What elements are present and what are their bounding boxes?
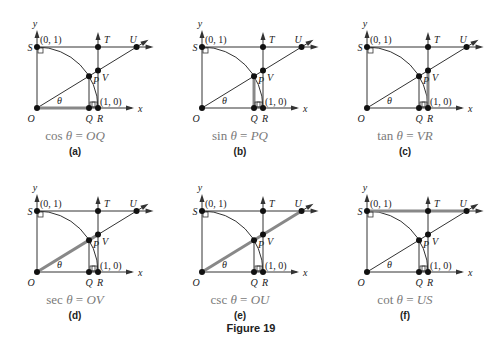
- label-U: U: [295, 198, 303, 209]
- label-Q: Q: [415, 277, 423, 288]
- label-y-axis: y: [197, 18, 203, 29]
- label-P: P: [422, 239, 429, 250]
- label-O: O: [192, 277, 199, 288]
- label-R: R: [96, 277, 103, 288]
- panel-f: OQRSTUVPθxy(0, 1)(1, 0)cot θ = US(f): [357, 182, 483, 321]
- label-theta: θ: [57, 259, 62, 270]
- label-coord-1-0: (1, 0): [100, 96, 122, 108]
- point-P: [251, 73, 257, 79]
- point-O: [34, 269, 40, 275]
- y-axis-arrow-icon: [365, 194, 370, 202]
- caption-sin: sin θ = PQ: [212, 128, 269, 143]
- label-S: S: [28, 42, 33, 53]
- label-y-axis: y: [197, 182, 203, 193]
- label-y-axis: y: [32, 182, 38, 193]
- label-y-axis: y: [32, 18, 38, 29]
- panel-c: OQRSTUVPθxy(0, 1)(1, 0)tan θ = VR(c): [357, 18, 483, 157]
- label-R: R: [426, 113, 433, 124]
- label-O: O: [27, 113, 34, 124]
- label-coord-1-0: (1, 0): [265, 96, 287, 108]
- point-T: [260, 44, 266, 50]
- x-axis-arrow-icon: [456, 106, 464, 111]
- tangent-arrow-icon: [261, 32, 266, 40]
- label-S: S: [193, 206, 198, 217]
- label-theta: θ: [387, 259, 392, 270]
- label-coord-0-1: (0, 1): [205, 198, 227, 210]
- subfigure-label-b: (b): [234, 146, 247, 157]
- label-T: T: [269, 34, 276, 45]
- caption-cot: cot θ = US: [377, 292, 433, 307]
- x-axis-arrow-icon: [291, 270, 299, 275]
- label-coord-0-1: (0, 1): [40, 34, 62, 46]
- point-O: [364, 269, 370, 275]
- point-Q: [416, 269, 422, 275]
- label-P: P: [92, 75, 99, 86]
- horizontal-arrow-icon: [146, 45, 154, 50]
- label-P: P: [422, 75, 429, 86]
- label-R: R: [261, 277, 268, 288]
- label-y-axis: y: [362, 18, 368, 29]
- point-P: [416, 237, 422, 243]
- point-T: [425, 208, 431, 214]
- subfigure-label-c: (c): [399, 146, 411, 157]
- label-U: U: [460, 34, 468, 45]
- label-Q: Q: [250, 277, 258, 288]
- label-S: S: [193, 42, 198, 53]
- label-Q: Q: [85, 277, 93, 288]
- tangent-arrow-icon: [261, 196, 266, 204]
- label-coord-1-0: (1, 0): [430, 260, 452, 272]
- label-O: O: [192, 113, 199, 124]
- subfigure-label-d: (d): [69, 310, 82, 321]
- y-axis-arrow-icon: [200, 194, 205, 202]
- label-x-axis: x: [137, 103, 143, 114]
- y-axis-arrow-icon: [35, 194, 40, 202]
- label-U: U: [460, 198, 468, 209]
- label-V: V: [267, 72, 275, 83]
- horizontal-arrow-icon: [476, 45, 484, 50]
- tangent-arrow-icon: [426, 32, 431, 40]
- label-theta: θ: [387, 95, 392, 106]
- point-Q: [86, 105, 92, 111]
- label-O: O: [357, 277, 364, 288]
- label-T: T: [434, 34, 441, 45]
- caption-csc: csc θ = OU: [211, 292, 271, 307]
- label-S: S: [358, 206, 363, 217]
- label-x-axis: x: [467, 103, 473, 114]
- subfigure-label-f: (f): [400, 310, 410, 321]
- label-Q: Q: [85, 113, 93, 124]
- figure-title: Figure 19: [227, 322, 276, 334]
- x-axis-arrow-icon: [456, 270, 464, 275]
- label-U: U: [130, 198, 138, 209]
- point-V: [260, 232, 266, 238]
- point-V: [95, 232, 101, 238]
- label-U: U: [295, 34, 303, 45]
- point-O: [199, 105, 205, 111]
- label-coord-0-1: (0, 1): [40, 198, 62, 210]
- label-coord-0-1: (0, 1): [370, 198, 392, 210]
- horizontal-arrow-icon: [146, 209, 154, 214]
- label-coord-0-1: (0, 1): [205, 34, 227, 46]
- label-T: T: [104, 198, 111, 209]
- y-axis-arrow-icon: [365, 30, 370, 38]
- point-P: [251, 237, 257, 243]
- point-P: [416, 73, 422, 79]
- label-x-axis: x: [137, 267, 143, 278]
- label-coord-0-1: (0, 1): [370, 34, 392, 46]
- label-U: U: [130, 34, 138, 45]
- x-axis-arrow-icon: [291, 106, 299, 111]
- label-Q: Q: [415, 113, 423, 124]
- point-Q: [251, 105, 257, 111]
- label-T: T: [434, 198, 441, 209]
- tangent-arrow-icon: [96, 196, 101, 204]
- label-V: V: [432, 236, 440, 247]
- label-S: S: [358, 42, 363, 53]
- caption-sec: sec θ = OV: [46, 292, 105, 307]
- label-V: V: [102, 72, 110, 83]
- label-x-axis: x: [467, 267, 473, 278]
- horizontal-arrow-icon: [311, 45, 319, 50]
- point-Q: [416, 105, 422, 111]
- panel-a: OQRSTUVPθxy(0, 1)(1, 0)cos θ = OQ(a): [27, 18, 153, 157]
- label-x-axis: x: [302, 267, 308, 278]
- label-P: P: [257, 239, 264, 250]
- point-V: [425, 68, 431, 74]
